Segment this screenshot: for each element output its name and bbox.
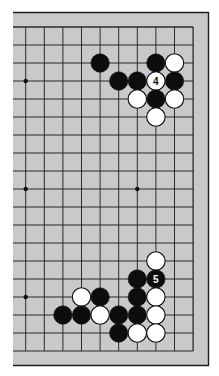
- move-number-label: 5: [153, 274, 159, 285]
- white-stone: 4: [147, 72, 165, 90]
- black-stone: [147, 54, 165, 72]
- white-stone: [128, 90, 146, 108]
- black-stone: [128, 72, 146, 90]
- white-stone: [147, 108, 165, 126]
- black-stone: [110, 306, 128, 324]
- star-point: [24, 295, 28, 299]
- white-stone: [147, 252, 165, 270]
- go-board-diagram: 45: [0, 0, 219, 376]
- black-stone: [91, 288, 109, 306]
- black-stone: [147, 90, 165, 108]
- black-stone: [128, 306, 146, 324]
- black-stone: [128, 270, 146, 288]
- black-stone: [110, 72, 128, 90]
- white-stone: [128, 324, 146, 342]
- star-point: [24, 187, 28, 191]
- black-stone: [110, 324, 128, 342]
- move-number-label: 4: [153, 76, 159, 87]
- white-stone: [147, 324, 165, 342]
- black-stone: [128, 288, 146, 306]
- white-stone: [91, 306, 109, 324]
- star-point: [24, 79, 28, 83]
- white-stone: [72, 288, 90, 306]
- black-stone: 5: [147, 270, 165, 288]
- star-point: [135, 187, 139, 191]
- white-stone: [147, 306, 165, 324]
- white-stone: [165, 90, 183, 108]
- black-stone: [72, 306, 90, 324]
- black-stone: [54, 306, 72, 324]
- white-stone: [147, 288, 165, 306]
- black-stone: [91, 54, 109, 72]
- black-stone: [165, 72, 183, 90]
- white-stone: [165, 54, 183, 72]
